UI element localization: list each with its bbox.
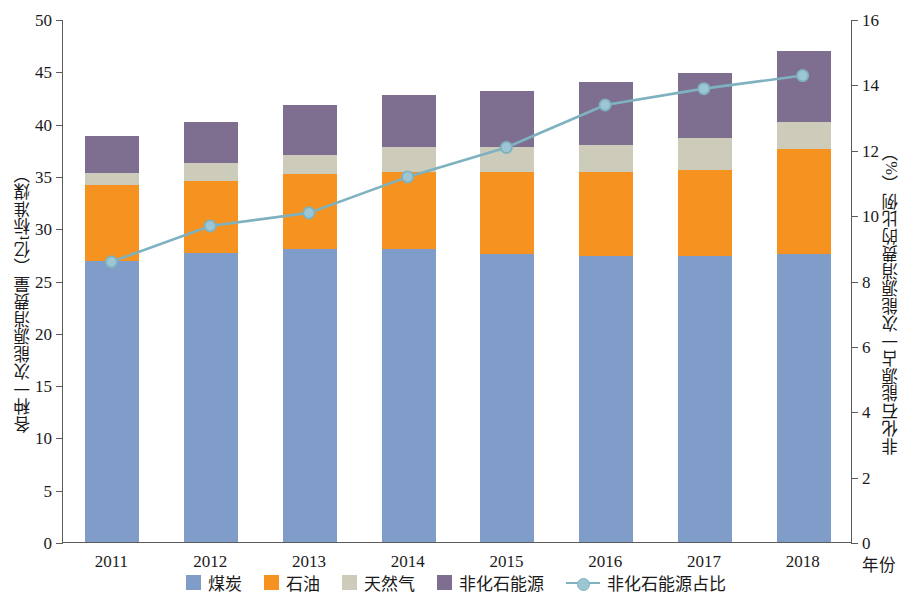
bar-segment bbox=[480, 147, 534, 172]
bar-group bbox=[382, 19, 436, 542]
bar-segment bbox=[382, 172, 436, 249]
legend-label: 非化石能源 bbox=[459, 570, 544, 595]
bar-segment bbox=[777, 254, 831, 542]
y-axis-left-tick-label: 45 bbox=[35, 64, 52, 81]
y-axis-left-tick-label: 0 bbox=[44, 535, 53, 552]
bar-segment bbox=[85, 173, 139, 186]
y-axis-left-tick bbox=[56, 20, 63, 21]
bar-segment bbox=[777, 122, 831, 149]
y-axis-right-tick bbox=[851, 478, 858, 479]
bar-segment bbox=[283, 174, 337, 249]
bars-layer bbox=[63, 20, 851, 542]
bar-group bbox=[184, 19, 238, 542]
bar-segment bbox=[579, 256, 633, 542]
bar-segment bbox=[579, 82, 633, 145]
bar-segment bbox=[85, 185, 139, 260]
x-axis-tick-label: 2013 bbox=[269, 552, 349, 572]
y-axis-right-tick-label: 0 bbox=[862, 535, 871, 552]
x-axis-tick-label: 2016 bbox=[565, 552, 645, 572]
bar-segment bbox=[579, 172, 633, 257]
y-axis-right-tick-label: 14 bbox=[862, 77, 879, 94]
bar-segment bbox=[382, 249, 436, 542]
bar-group bbox=[85, 19, 139, 542]
bar-segment bbox=[283, 105, 337, 155]
y-axis-left-tick-label: 15 bbox=[35, 378, 52, 395]
y-axis-left-tick-label: 40 bbox=[35, 116, 52, 133]
y-axis-left-tick bbox=[56, 438, 63, 439]
bar-segment bbox=[85, 261, 139, 542]
plot-area: 05101520253035404550 0246810121416 bbox=[62, 20, 852, 543]
bar-group bbox=[283, 19, 337, 542]
legend-line-marker-icon bbox=[566, 576, 600, 590]
bar-segment bbox=[678, 170, 732, 257]
bar-group bbox=[678, 19, 732, 542]
bar-segment bbox=[85, 136, 139, 173]
x-axis-tick-label: 2011 bbox=[71, 552, 151, 572]
y-axis-right-tick bbox=[851, 412, 858, 413]
legend: 煤炭石油天然气非化石能源非化石能源占比 bbox=[0, 570, 912, 595]
y-axis-left-tick bbox=[56, 125, 63, 126]
legend-label: 非化石能源占比 bbox=[607, 570, 726, 595]
legend-label: 天然气 bbox=[364, 570, 415, 595]
y-axis-left-tick bbox=[56, 177, 63, 178]
y-axis-right-tick bbox=[851, 347, 858, 348]
bar-segment bbox=[480, 172, 534, 255]
y-axis-right-tick bbox=[851, 85, 858, 86]
y-axis-left-tick bbox=[56, 386, 63, 387]
y-axis-left-tick-label: 10 bbox=[35, 430, 52, 447]
y-axis-left-tick-label: 35 bbox=[35, 168, 52, 185]
bar-segment bbox=[184, 163, 238, 181]
y-axis-right-tick-label: 16 bbox=[862, 12, 879, 29]
y-axis-left-tick-label: 30 bbox=[35, 221, 52, 238]
bar-segment bbox=[777, 149, 831, 255]
legend-swatch-icon bbox=[437, 575, 452, 590]
bar-segment bbox=[579, 145, 633, 172]
bar-segment bbox=[777, 51, 831, 121]
y-axis-right-title: 非化石能源占一次能源消费的比例（%） bbox=[880, 143, 904, 455]
y-axis-left-tick-label: 50 bbox=[35, 12, 52, 29]
bar-segment bbox=[678, 256, 732, 542]
legend-item[interactable]: 非化石能源 bbox=[437, 570, 544, 595]
bar-segment bbox=[283, 249, 337, 542]
y-axis-right-tick bbox=[851, 282, 858, 283]
bar-segment bbox=[184, 122, 238, 164]
y-axis-right-tick bbox=[851, 20, 858, 21]
y-axis-right-tick-label: 4 bbox=[862, 404, 871, 421]
bar-segment bbox=[184, 253, 238, 542]
bar-segment bbox=[184, 181, 238, 253]
legend-swatch-icon bbox=[186, 575, 201, 590]
y-axis-left-tick-label: 20 bbox=[35, 325, 52, 342]
bar-group bbox=[777, 19, 831, 542]
energy-consumption-chart: 各种一次能源消费量（亿t标准煤） 非化石能源占一次能源消费的比例（%） 0510… bbox=[0, 0, 912, 598]
y-axis-right-tick-label: 10 bbox=[862, 208, 879, 225]
y-axis-right-tick bbox=[851, 151, 858, 152]
y-axis-left-tick-label: 5 bbox=[44, 482, 53, 499]
legend-item[interactable]: 石油 bbox=[264, 570, 320, 595]
x-axis-tick-label: 2015 bbox=[466, 552, 546, 572]
legend-label: 石油 bbox=[286, 570, 320, 595]
bar-segment bbox=[283, 155, 337, 174]
y-axis-left-tick bbox=[56, 543, 63, 544]
legend-item[interactable]: 煤炭 bbox=[186, 570, 242, 595]
legend-label: 煤炭 bbox=[208, 570, 242, 595]
y-axis-left-tick bbox=[56, 334, 63, 335]
y-axis-left-tick-label: 25 bbox=[35, 273, 52, 290]
bar-segment bbox=[382, 95, 436, 146]
y-axis-right-tick bbox=[851, 216, 858, 217]
y-axis-left-tick bbox=[56, 282, 63, 283]
bar-segment bbox=[382, 147, 436, 172]
y-axis-left-title: 各种一次能源消费量（亿t标准煤） bbox=[12, 165, 36, 433]
legend-item[interactable]: 天然气 bbox=[342, 570, 415, 595]
bar-segment bbox=[480, 91, 534, 146]
legend-swatch-icon bbox=[264, 575, 279, 590]
y-axis-right-tick-label: 2 bbox=[862, 469, 871, 486]
x-axis-tick-label: 2017 bbox=[664, 552, 744, 572]
y-axis-right-tick bbox=[851, 543, 858, 544]
x-axis-tick-label: 2018 bbox=[763, 552, 843, 572]
y-axis-left-tick bbox=[56, 491, 63, 492]
y-axis-right-tick-label: 12 bbox=[862, 142, 879, 159]
legend-item[interactable]: 非化石能源占比 bbox=[566, 570, 726, 595]
bar-group bbox=[579, 19, 633, 542]
y-axis-left-tick bbox=[56, 72, 63, 73]
y-axis-left-tick bbox=[56, 229, 63, 230]
